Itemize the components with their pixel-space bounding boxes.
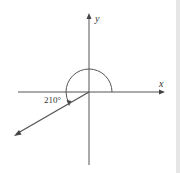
angle-diagram: y x 210°: [0, 0, 180, 173]
y-axis-label: y: [94, 13, 100, 24]
x-axis-arrowhead-icon: [159, 90, 165, 95]
x-axis-label: x: [158, 78, 164, 89]
right-edge-bar: [176, 0, 180, 173]
diagram-canvas: y x 210°: [0, 0, 180, 173]
angle-label: 210°: [44, 95, 62, 105]
y-axis-arrowhead-icon: [87, 13, 92, 19]
